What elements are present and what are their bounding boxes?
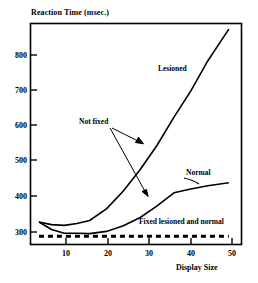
y-tick-label: 600 [15,121,27,130]
chart-plot: 800 700 600 500 400 300 10 20 30 40 50 [0,0,258,283]
x-tick-label: 40 [187,249,195,258]
y-tick-label: 400 [15,192,27,201]
annotation-fixed-both: Fixed lesioned and normal [139,217,224,226]
y-tick-label: 800 [15,51,27,60]
chart-container: Reaction Time (msec.) 800 700 600 500 40… [0,0,258,283]
x-tick-label: 20 [104,249,112,258]
x-axis-tick-labels: 10 20 30 40 50 [62,249,236,258]
x-tick-label: 10 [62,249,70,258]
y-tick-label: 300 [15,228,27,237]
annotation-not-fixed: Not fixed [79,117,109,126]
y-tick-label: 500 [15,156,27,165]
annotation-normal: Normal [186,168,211,177]
x-tick-label: 30 [145,249,153,258]
annotation-lesioned: Lesioned [158,64,188,73]
x-tick-label: 50 [228,249,236,258]
y-axis-tick-labels: 800 700 600 500 400 300 [15,51,27,237]
x-axis-title: Display Size [176,263,218,272]
y-tick-label: 700 [15,86,27,95]
